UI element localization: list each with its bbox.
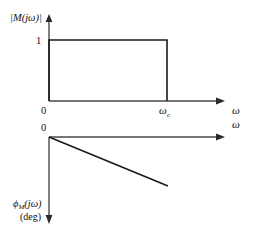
figure-container: |M(jω)| 1 0 ω c ω 0 ω ϕM(jω) (deg): [0, 0, 253, 238]
phase-response-curve: [49, 137, 168, 186]
phase-plot-group: 0 ω ϕM(jω) (deg): [13, 118, 240, 224]
phase-y-axis-arrowhead: [46, 215, 53, 224]
phase-x-axis-label: ω: [232, 118, 240, 130]
magnitude-y-axis-arrowhead: [46, 14, 53, 22]
magnitude-plot-group: |M(jω)| 1 0 ω c ω: [10, 12, 240, 119]
magnitude-x-axis-arrowhead: [216, 97, 225, 104]
phase-x-axis-arrowhead: [216, 133, 225, 140]
magnitude-cutoff-subscript: c: [167, 111, 171, 119]
phase-phi-argument: (jω): [24, 198, 42, 210]
phase-origin-label: 0: [41, 122, 46, 133]
magnitude-x-axis-label: ω: [232, 104, 240, 116]
magnitude-unity-tick-label: 1: [36, 35, 41, 46]
magnitude-origin-label: 0: [41, 105, 46, 116]
magnitude-response-curve: [49, 40, 167, 101]
plot-canvas: |M(jω)| 1 0 ω c ω 0 ω ϕM(jω) (deg): [0, 0, 253, 238]
magnitude-y-axis-label: |M(jω)|: [10, 12, 42, 24]
phase-y-axis-label: ϕM(jω): [13, 198, 42, 211]
magnitude-cutoff-label: ω: [159, 104, 167, 116]
phase-y-axis-units: (deg): [20, 211, 41, 223]
